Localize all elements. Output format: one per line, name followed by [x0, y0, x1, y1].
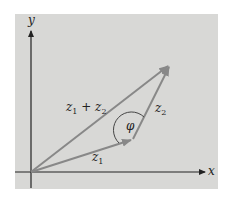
label-z1: z1 [92, 151, 103, 166]
vector-z1 [31, 140, 131, 172]
label-z1-plus-z2: z1 + z2 [66, 101, 107, 116]
label-z2: z2 [155, 102, 166, 117]
x-axis-label: x [208, 165, 215, 177]
y-axis-label: y [28, 14, 35, 26]
label-phi: φ [126, 120, 134, 132]
diagram-canvas [0, 0, 230, 199]
vector-addition-diagram: y x z1 + z2 z2 z1 φ [0, 0, 230, 199]
